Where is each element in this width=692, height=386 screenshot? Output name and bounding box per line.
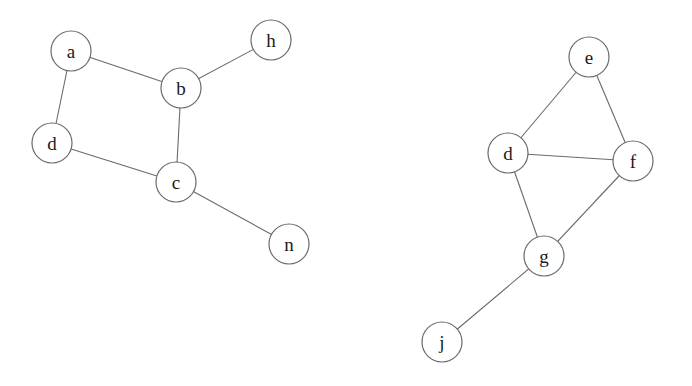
node-right-graph-j: j [422, 322, 462, 362]
node-label: g [539, 246, 549, 267]
edges-layer [52, 40, 633, 342]
node-label: e [585, 47, 593, 68]
right-graph-edges [442, 57, 633, 342]
node-left-graph-d: d [32, 123, 72, 163]
node-label: n [284, 234, 294, 255]
node-right-graph-d: d [488, 133, 528, 173]
node-label: j [438, 332, 444, 353]
node-label: b [176, 78, 186, 99]
node-left-graph-a: a [51, 31, 91, 71]
node-label: a [67, 41, 76, 62]
node-right-graph-f: f [613, 141, 653, 181]
node-label: d [47, 133, 57, 154]
graph-diagram: abhdcnedfgj [0, 0, 692, 386]
node-right-graph-g: g [524, 236, 564, 276]
node-label: d [503, 143, 513, 164]
right-graph-nodes: edfgj [422, 37, 653, 362]
node-label: h [266, 30, 276, 51]
left-graph-nodes: abhdcn [32, 20, 309, 264]
node-label: c [172, 172, 180, 193]
node-left-graph-b: b [161, 68, 201, 108]
node-left-graph-n: n [269, 224, 309, 264]
node-left-graph-c: c [156, 162, 196, 202]
node-left-graph-h: h [251, 20, 291, 60]
nodes-layer: abhdcnedfgj [32, 20, 653, 362]
node-right-graph-e: e [569, 37, 609, 77]
node-label: f [630, 151, 637, 172]
